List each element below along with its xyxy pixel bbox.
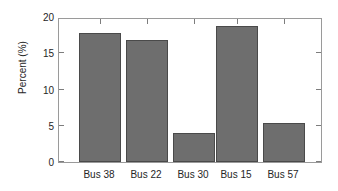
bar-bus-30[interactable] (173, 133, 215, 162)
y-axis-label: Percent (%) (17, 28, 28, 108)
y-tick-label-15: 15 (28, 49, 54, 59)
bar-bus-57[interactable] (263, 123, 305, 162)
plot-area (58, 18, 322, 163)
y-tick-label-5: 5 (28, 122, 54, 132)
bar-bus-22[interactable] (126, 40, 168, 162)
y-tick-label-20: 20 (28, 13, 54, 23)
x-tick-label-bus-22: Bus 22 (120, 170, 172, 180)
bar-bus-38[interactable] (79, 33, 121, 162)
bars-layer (59, 19, 321, 162)
y-tick-label-10: 10 (28, 86, 54, 96)
y-tick-label-0: 0 (28, 158, 54, 168)
bar-bus-15[interactable] (216, 26, 258, 162)
x-tick-label-bus-57: Bus 57 (257, 170, 309, 180)
x-tick-label-bus-15: Bus 15 (210, 170, 262, 180)
bar-chart-figure: Percent (%) 0 5 10 15 20 Bus 38 Bus 22 B… (0, 0, 338, 191)
x-tick-label-bus-38: Bus 38 (73, 170, 125, 180)
